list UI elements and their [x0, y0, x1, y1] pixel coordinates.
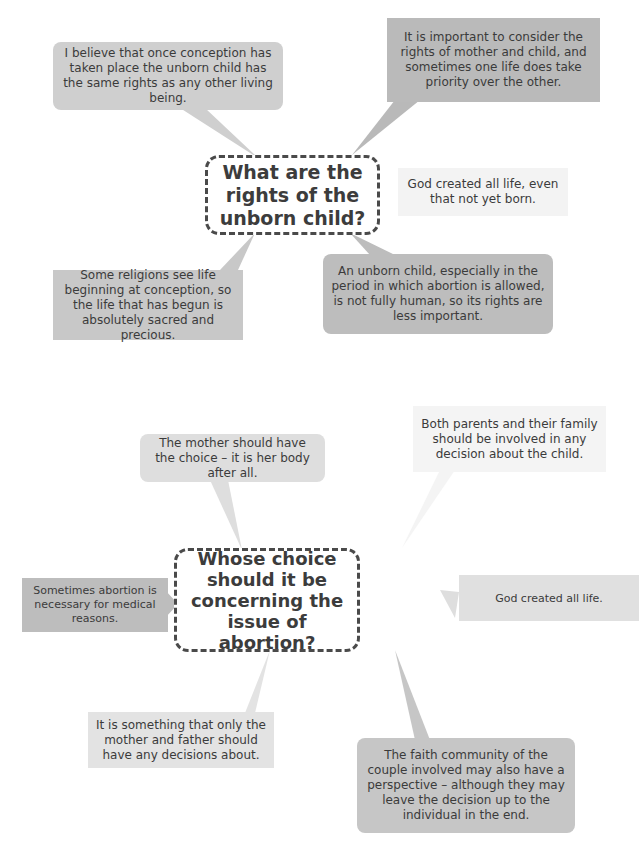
d1-bubble-top-right-text: It is important to consider the rights o…	[395, 30, 592, 90]
tail-d2-top-right	[402, 470, 455, 548]
tail-d2-bottom-left	[245, 650, 270, 713]
d1-bubble-top-left: I believe that once conception has taken…	[53, 42, 283, 110]
d1-central-question: What are the rights of the unborn child?	[205, 155, 380, 235]
d1-central-question-text: What are the rights of the unborn child?	[208, 161, 377, 230]
d1-bubble-top-right: It is important to consider the rights o…	[387, 18, 600, 102]
tail-d2-top-left	[210, 480, 242, 550]
tail-d1-top-right	[352, 100, 420, 155]
tail-d2-right	[440, 590, 459, 618]
d1-bubble-bottom-right-text: An unborn child, especially in the perio…	[331, 264, 545, 324]
d2-bubble-bottom-right: The faith community of the couple involv…	[357, 738, 575, 833]
d2-bubble-top-left: The mother should have the choice – it i…	[140, 434, 325, 482]
tail-d1-bottom-left	[220, 233, 255, 270]
d2-bubble-right: God created all life.	[459, 575, 639, 621]
d1-bubble-right: God created all life, even that not yet …	[398, 168, 568, 216]
d2-bubble-right-text: God created all life.	[495, 591, 603, 606]
d2-bubble-top-right: Both parents and their family should be …	[413, 406, 606, 472]
d2-bubble-top-left-text: The mother should have the choice – it i…	[148, 436, 317, 481]
d2-bubble-top-right-text: Both parents and their family should be …	[421, 417, 598, 462]
tail-d1-bottom-right	[350, 233, 395, 255]
d2-bubble-bottom-right-text: The faith community of the couple involv…	[365, 748, 567, 823]
d2-central-question-text: Whose choice should it be concerning the…	[177, 548, 357, 653]
d2-bubble-left-text: Sometimes abortion is necessary for medi…	[30, 584, 160, 626]
d1-bubble-right-text: God created all life, even that not yet …	[406, 177, 560, 207]
d2-bubble-left: Sometimes abortion is necessary for medi…	[22, 578, 168, 632]
tail-d1-top-left	[180, 108, 258, 158]
d1-bubble-top-left-text: I believe that once conception has taken…	[61, 46, 275, 106]
d2-bubble-bottom-left-text: It is something that only the mother and…	[96, 718, 266, 763]
tail-d2-bottom-right	[395, 650, 430, 740]
d1-bubble-bottom-right: An unborn child, especially in the perio…	[323, 254, 553, 334]
d1-bubble-bottom-left: Some religions see life beginning at con…	[53, 270, 243, 340]
d2-central-question: Whose choice should it be concerning the…	[174, 548, 360, 652]
d1-bubble-bottom-left-text: Some religions see life beginning at con…	[61, 268, 235, 343]
d2-bubble-bottom-left: It is something that only the mother and…	[88, 712, 274, 768]
